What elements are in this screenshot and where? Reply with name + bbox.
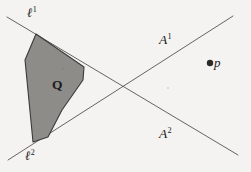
- figure-canvas: [0, 0, 251, 172]
- region-a2-label: A2: [159, 127, 172, 141]
- line-l1-label: ℓ1: [27, 6, 37, 19]
- region-a2-superscript: 2: [168, 126, 172, 135]
- line-l2-symbol: ℓ: [25, 148, 30, 163]
- region-a1-symbol: A: [159, 32, 167, 47]
- region-a1-label: A1: [159, 33, 172, 47]
- line-l1-superscript: 1: [33, 5, 37, 14]
- point-p-dot: [207, 60, 213, 66]
- line-l1-symbol: ℓ: [27, 5, 32, 20]
- polygon-q-label: Q: [52, 78, 63, 92]
- scan-speck-left: [62, 68, 63, 69]
- region-a1-superscript: 1: [168, 32, 172, 41]
- line-l2-superscript: 2: [31, 148, 35, 157]
- line-l2-label: ℓ2: [25, 149, 35, 162]
- region-a2-symbol: A: [159, 126, 167, 141]
- point-p-label: p: [214, 56, 221, 69]
- geometry-figure: ℓ1 ℓ2 A1 A2 Q p: [0, 0, 251, 172]
- scan-speck-right: [167, 87, 168, 88]
